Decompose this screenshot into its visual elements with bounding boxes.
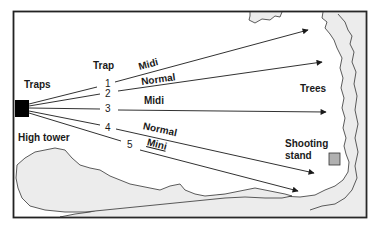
shooting-stand xyxy=(329,153,340,165)
shooting-stand-label-1: Shooting xyxy=(285,139,328,149)
trees-label: Trees xyxy=(300,84,326,94)
trap-number-5: 5 xyxy=(127,140,133,150)
trap-block xyxy=(15,100,29,117)
shooting-range-diagram xyxy=(0,0,379,230)
trees-top-clump xyxy=(249,12,282,23)
trajectory-1 xyxy=(115,30,308,82)
trap-number-2: 2 xyxy=(105,89,111,99)
trajectory-5 xyxy=(140,150,298,191)
trap-type-3: Midi xyxy=(144,96,164,106)
trap-number-3: 3 xyxy=(105,104,111,114)
shooting-stand-label-2: stand xyxy=(285,151,312,161)
high-tower-label: High tower xyxy=(18,133,70,143)
trap-header-label: Trap xyxy=(93,61,114,71)
trajectory-3 xyxy=(118,110,326,112)
traps-label: Traps xyxy=(24,80,51,90)
trap-number-4: 4 xyxy=(105,123,111,133)
